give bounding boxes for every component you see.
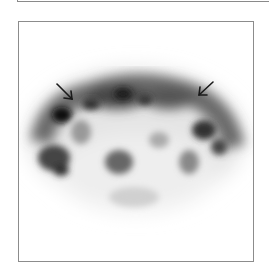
image-panel (18, 21, 254, 262)
scan-image (19, 22, 253, 261)
previous-panel-frame (17, 0, 269, 2)
